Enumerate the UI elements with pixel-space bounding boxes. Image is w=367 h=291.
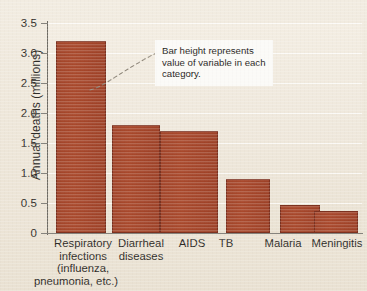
gridline-3.5 [48, 23, 362, 24]
y-axis-line [47, 21, 48, 235]
cat-line: Meningitis [306, 237, 367, 250]
bar-diarrheal-diseases[interactable] [112, 125, 160, 233]
annotation-line-3: category. [162, 68, 267, 80]
cat-line: pneumonia, etc.) [26, 275, 126, 288]
x-category-label-malaria: Malaria [258, 237, 308, 250]
cat-line: Malaria [258, 237, 308, 250]
annotation-line-1: Bar height represents [162, 45, 267, 57]
annotation-line-2: value of variable in each [162, 57, 267, 69]
bar-chart-figure: lipids transport across the protein memb… [0, 0, 367, 291]
y-tick-0 [41, 233, 47, 234]
bar-aids[interactable] [160, 131, 218, 233]
bar-tb[interactable] [226, 179, 270, 233]
x-category-label-tb: TB [204, 237, 248, 250]
annotation-callout: Bar height represents value of variable … [155, 40, 273, 86]
cat-line: TB [204, 237, 248, 250]
y-tick-label-0: 0 [3, 227, 37, 239]
x-category-label-meningitis: Meningitis [306, 237, 367, 250]
cat-line: diseases [108, 250, 174, 263]
x-axis-line [47, 233, 363, 234]
bar-meningitis[interactable] [314, 211, 358, 233]
cat-line: (influenza, [40, 262, 126, 275]
bar-respiratory-infections[interactable] [56, 41, 106, 233]
y-axis-title: Annual deaths (millions) [29, 15, 43, 215]
